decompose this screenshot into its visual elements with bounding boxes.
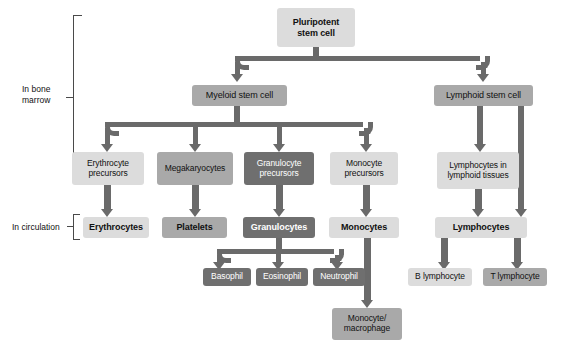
- edge-lymphocytes-to-t: [514, 238, 521, 263]
- edge-monocyte-precursors-to-monocytes: [363, 185, 370, 210]
- edge-to-granulocyte-precursors: [277, 126, 282, 145]
- arrowhead-to-megakaryocytes: [189, 144, 201, 152]
- node-myeloid-stem-cell-label: Myeloid stem cell: [206, 90, 273, 100]
- node-neutrophil-label: Neutrophil: [320, 272, 358, 282]
- arrowhead-to-lymphoid-tissues: [474, 144, 486, 152]
- node-lymphoid-stem-cell[interactable]: Lymphoid stem cell: [434, 85, 533, 106]
- node-monocytes[interactable]: Monocytes: [329, 217, 399, 238]
- node-t-lymphocyte[interactable]: T lymphocyte: [483, 268, 547, 286]
- edge-erythrocyte-precursors-to-erythrocytes: [104, 185, 111, 210]
- node-pluripotent-stem-cell-line2: stem cell: [297, 28, 335, 38]
- node-pluripotent-stem-cell[interactable]: Pluripotent stem cell: [277, 8, 355, 47]
- node-t-lymphocyte-label: T lymphocyte: [490, 272, 539, 282]
- node-granulocytes-label: Granulocytes: [251, 222, 307, 232]
- edge-to-erythrocyte-precursors: [105, 128, 110, 145]
- node-erythrocyte-precursors[interactable]: Erythrocyte precursors: [72, 152, 144, 185]
- node-b-lymphocyte[interactable]: B lymphocyte: [408, 268, 472, 286]
- side-label-in-bone-marrow-line2: marrow: [22, 95, 50, 106]
- edge-pluripotent-bus: [240, 56, 480, 61]
- node-myeloid-stem-cell[interactable]: Myeloid stem cell: [192, 85, 287, 106]
- bone-marrow-bracket-tick: [66, 97, 74, 98]
- node-lymphocytes[interactable]: Lymphocytes: [435, 217, 527, 238]
- arrowhead-to-lymphoid: [477, 74, 489, 82]
- node-erythrocytes-label: Erythrocytes: [89, 222, 143, 232]
- edge-to-lymphoid-tissues: [477, 106, 483, 145]
- node-megakaryocytes-label: Megakaryocytes: [165, 164, 226, 174]
- node-pluripotent-stem-cell-line1: Pluripotent: [293, 17, 339, 27]
- node-monocyte-precursors-line2: precursors: [344, 169, 383, 179]
- edge-monocytes-to-macrophage: [364, 238, 371, 301]
- arrowhead-platelets: [189, 209, 201, 217]
- node-monocyte-macrophage[interactable]: Monocyte/ macrophage: [332, 308, 402, 340]
- node-eosinophil-label: Eosinophil: [263, 272, 301, 282]
- node-lymphocytes-in-lymphoid-tissues-line2: lymphoid tissues: [447, 171, 508, 181]
- node-granulocyte-precursors-line2: precursors: [259, 169, 298, 179]
- side-label-in-circulation: In circulation: [12, 222, 60, 233]
- node-monocyte-macrophage-line2: macrophage: [344, 324, 390, 334]
- edge-to-megakaryocytes: [193, 126, 198, 145]
- edge-to-monocyte-precursors: [364, 128, 369, 145]
- arrowhead-monocytes: [360, 209, 372, 217]
- side-label-in-circulation-line1: In circulation: [12, 222, 60, 233]
- circulation-bracket-tick: [67, 226, 74, 227]
- edge-lymphocytes-to-b: [441, 238, 448, 263]
- edge-lymphoid-tissues-to-lymphocytes: [475, 189, 482, 210]
- edge-myeloid-bus: [110, 122, 363, 127]
- node-b-lymphocyte-label: B lymphocyte: [415, 272, 465, 282]
- node-megakaryocytes[interactable]: Megakaryocytes: [157, 152, 233, 185]
- node-basophil[interactable]: Basophil: [203, 268, 251, 286]
- node-platelets-label: Platelets: [176, 222, 212, 232]
- side-label-in-bone-marrow: In bone marrow: [22, 84, 50, 105]
- node-erythrocyte-precursors-line2: precursors: [88, 169, 127, 179]
- node-basophil-label: Basophil: [211, 272, 243, 282]
- side-label-in-bone-marrow-line1: In bone: [22, 84, 50, 95]
- node-erythrocytes[interactable]: Erythrocytes: [83, 217, 149, 238]
- edge-granulocyte-precursors-to-granulocytes: [276, 185, 283, 210]
- arrowhead-erythrocytes: [101, 209, 113, 217]
- arrowhead-to-erythrocyte-precursors: [101, 144, 113, 152]
- edge-megakaryocytes-to-platelets: [192, 185, 199, 210]
- circulation-bracket: [73, 214, 80, 240]
- arrowhead-lymphocytes: [472, 209, 484, 217]
- arrowhead-granulocytes: [273, 209, 285, 217]
- node-eosinophil[interactable]: Eosinophil: [256, 268, 308, 286]
- arrowhead-to-granulocyte-precursors: [273, 144, 285, 152]
- arrowhead-to-myeloid: [231, 74, 243, 82]
- node-monocyte-precursors[interactable]: Monocyte precursors: [330, 152, 398, 185]
- diagram-canvas: In bone marrow In circulation: [0, 0, 563, 346]
- node-platelets[interactable]: Platelets: [162, 217, 227, 238]
- arrowhead-lymphoid-bypass: [515, 209, 527, 217]
- arrowhead-to-monocyte-precursors: [360, 144, 372, 152]
- node-lymphocytes-label: Lymphocytes: [453, 222, 510, 232]
- node-granulocytes[interactable]: Granulocytes: [243, 217, 315, 238]
- node-neutrophil[interactable]: Neutrophil: [313, 268, 365, 286]
- arrowhead-monocyte-macrophage: [361, 300, 373, 308]
- node-lymphocytes-in-lymphoid-tissues[interactable]: Lymphocytes in lymphoid tissues: [437, 152, 519, 189]
- node-lymphoid-stem-cell-label: Lymphoid stem cell: [446, 90, 521, 100]
- node-granulocyte-precursors[interactable]: Granulocyte precursors: [244, 152, 314, 185]
- node-monocytes-label: Monocytes: [341, 222, 387, 232]
